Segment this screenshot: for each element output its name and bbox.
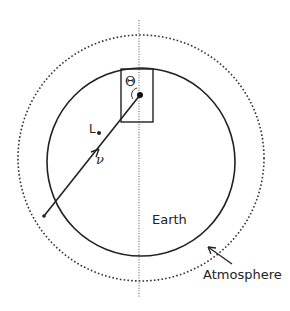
diagram-canvas (0, 0, 290, 311)
detector-point (137, 92, 143, 98)
atmosphere-pointer (208, 247, 232, 264)
neutrino-track (44, 95, 140, 216)
theta-label: Θ (125, 75, 136, 88)
theta-angle-arc (132, 88, 137, 99)
L-label: L (89, 123, 96, 135)
atmosphere-label: Atmosphere (203, 268, 282, 281)
atmosphere-circle (18, 35, 264, 281)
track-start-point (42, 214, 46, 218)
earth-label: Earth (152, 213, 187, 226)
nu-label: ν (96, 153, 104, 166)
L-subscript-dot (97, 131, 101, 135)
